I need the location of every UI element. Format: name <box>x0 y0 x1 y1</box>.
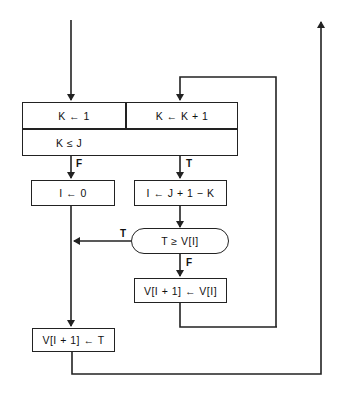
true-label: T <box>186 158 192 169</box>
flowchart-canvas: K ← 1 K ← K + 1 K ≤ J F T T F I ← 0 I ← … <box>0 0 338 394</box>
compare-decision: T ≥ V[I] <box>131 228 229 254</box>
increment-cell: K ← K + 1 <box>126 102 238 129</box>
compare-false-label: F <box>186 257 192 268</box>
condition-cell: K ≤ J <box>56 129 176 156</box>
insert-box: V[I + 1] ← T <box>32 328 115 352</box>
set-i-zero-box: I ← 0 <box>31 180 115 206</box>
set-i-index-box: I ← J + 1 − K <box>134 180 227 206</box>
compare-true-label: T <box>120 228 126 239</box>
false-label: F <box>76 158 82 169</box>
shift-return-line <box>180 302 277 327</box>
init-cell: K ← 1 <box>22 102 126 129</box>
shift-box: V[I + 1] ← V[I] <box>134 278 227 303</box>
